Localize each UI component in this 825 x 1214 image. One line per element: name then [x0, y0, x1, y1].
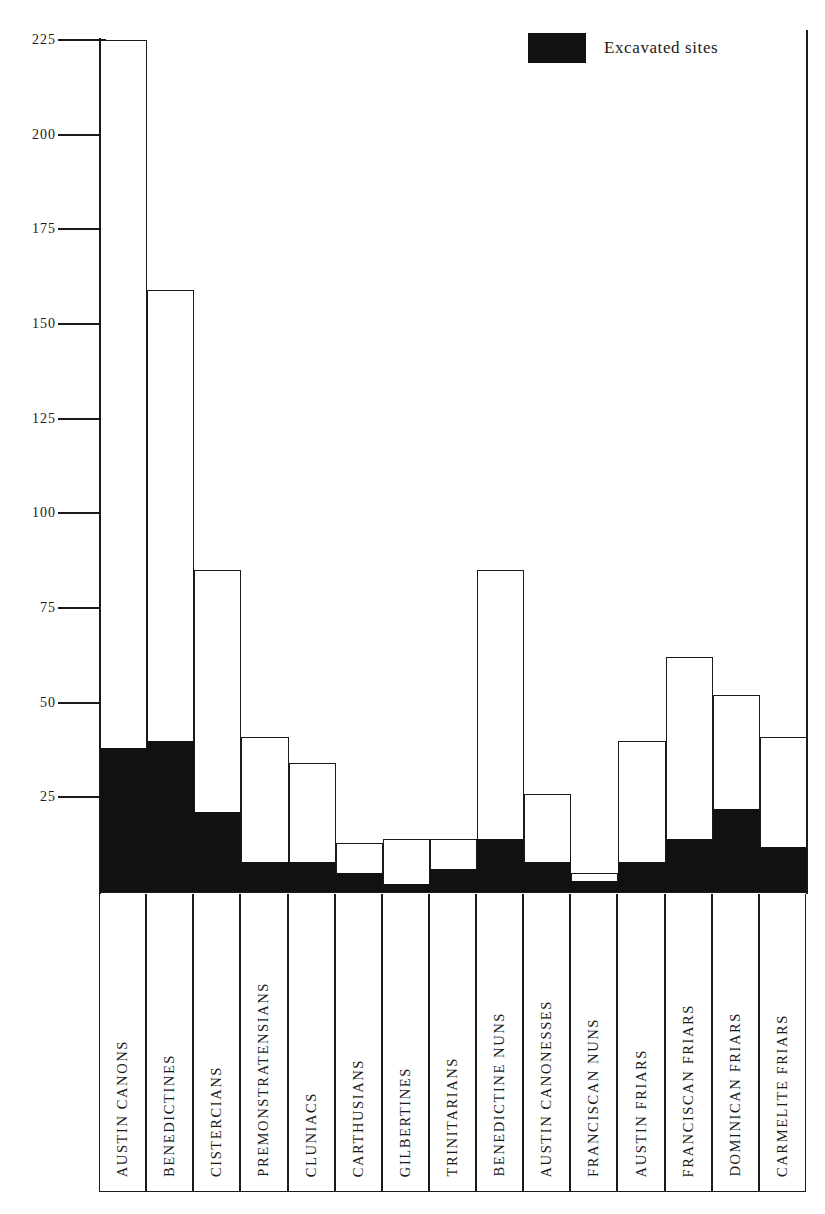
bar-excavated [760, 847, 807, 892]
category-label: BENEDICTINES [161, 1054, 178, 1177]
y-tick-line-50 [58, 702, 106, 704]
category-cell: FRANCISCAN NUNS [570, 894, 617, 1192]
y-tick-line-25 [58, 796, 106, 798]
bar-excavated [666, 839, 713, 892]
category-cell: BENEDICTINES [146, 894, 193, 1192]
category-cell: TRINITARIANS [429, 894, 476, 1192]
category-label: CISTERCIANS [208, 1066, 225, 1177]
y-tick-label-200: 200 [8, 127, 56, 143]
category-label-row: AUSTIN CANONSBENEDICTINESCISTERCIANSPREM… [99, 894, 808, 1192]
bar-excavated [383, 884, 430, 892]
y-tick-label-50: 50 [8, 695, 56, 711]
y-tick-line-75 [58, 607, 106, 609]
bar-excavated [524, 862, 571, 892]
category-cell: DOMINICAN FRIARS [712, 894, 759, 1192]
category-label: TRINITARIANS [444, 1057, 461, 1177]
y-tick-label-75: 75 [8, 600, 56, 616]
monastic-houses-bar-chart: Excavated sites 225200175150125100755025… [0, 0, 825, 1214]
bar-excavated [713, 809, 760, 892]
category-cell: FRANCISCAN FRIARS [665, 894, 712, 1192]
y-tick-label-150: 150 [8, 316, 56, 332]
bar-excavated [571, 881, 618, 892]
bar-excavated [618, 862, 665, 892]
category-cell: CARTHUSIANS [335, 894, 382, 1192]
category-cell: AUSTIN CANONS [99, 894, 146, 1192]
category-label: DOMINICAN FRIARS [727, 1012, 744, 1177]
y-tick-label-125: 125 [8, 411, 56, 427]
category-label: AUSTIN CANONESSES [538, 1000, 555, 1177]
bar-excavated [289, 862, 336, 892]
y-tick-line-225 [58, 39, 106, 41]
bar-excavated [477, 839, 524, 892]
category-label: FRANCISCAN FRIARS [680, 1004, 697, 1177]
bar-excavated [194, 812, 241, 892]
y-tick-label-175: 175 [8, 221, 56, 237]
category-label: BENEDICTINE NUNS [491, 1012, 508, 1177]
y-tick-line-100 [58, 512, 106, 514]
bar-excavated [241, 862, 288, 892]
category-cell: PREMONSTRATENSIANS [240, 894, 287, 1192]
category-label: AUSTIN FRIARS [633, 1049, 650, 1177]
bar-excavated [147, 741, 194, 892]
category-cell: CARMELITE FRIARS [759, 894, 806, 1192]
category-cell: AUSTIN CANONESSES [523, 894, 570, 1192]
category-label: PREMONSTRATENSIANS [255, 982, 272, 1177]
bar-excavated [100, 748, 147, 892]
y-tick-line-200 [58, 134, 106, 136]
category-cell: CISTERCIANS [193, 894, 240, 1192]
category-label: CARMELITE FRIARS [774, 1014, 791, 1177]
category-label: FRANCISCAN NUNS [585, 1018, 602, 1177]
category-label: AUSTIN CANONS [114, 1040, 131, 1177]
category-cell: AUSTIN FRIARS [617, 894, 664, 1192]
y-tick-line-175 [58, 228, 106, 230]
y-tick-label-225: 225 [8, 32, 56, 48]
bar-excavated [430, 869, 477, 892]
category-label: CLUNIACS [303, 1092, 320, 1177]
category-label: CARTHUSIANS [350, 1059, 367, 1177]
y-tick-label-100: 100 [8, 505, 56, 521]
category-cell: BENEDICTINE NUNS [476, 894, 523, 1192]
category-label: GILBERTINES [397, 1067, 414, 1177]
category-cell: CLUNIACS [288, 894, 335, 1192]
y-tick-label-25: 25 [8, 789, 56, 805]
y-tick-line-150 [58, 323, 106, 325]
y-tick-line-125 [58, 418, 106, 420]
category-cell: GILBERTINES [382, 894, 429, 1192]
bar-excavated [336, 873, 383, 892]
